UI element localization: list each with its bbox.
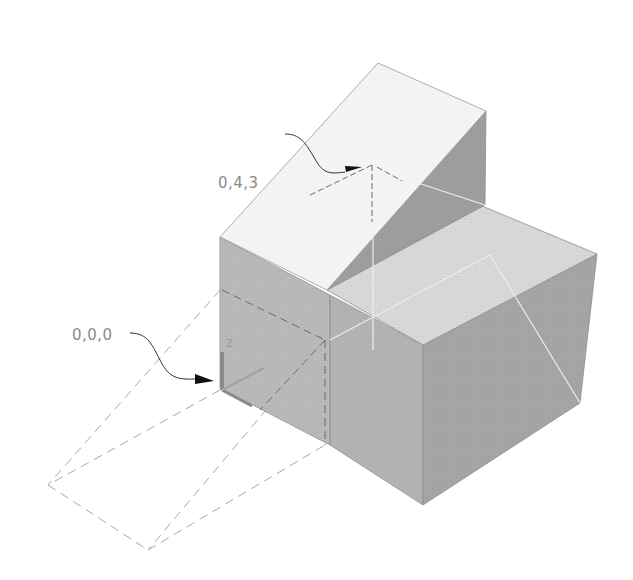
cad-drawing-canvas: Z 0,4,3 0,0,0	[0, 0, 633, 580]
arrowhead-icon	[195, 374, 214, 384]
point-label-043: 0,4,3	[218, 174, 259, 192]
callout-000: 0,0,0	[72, 326, 214, 384]
z-axis-label: Z	[226, 338, 233, 349]
isometric-solid-drawing: Z 0,4,3 0,0,0	[0, 0, 633, 580]
point-label-000: 0,0,0	[72, 326, 113, 344]
